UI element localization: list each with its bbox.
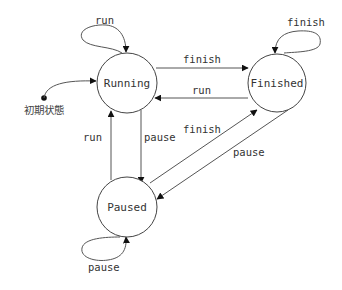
state-diagram: 初期状態 run finish run finish pause run fin… [0,0,342,290]
edge-label-finished-to-running: run [192,84,211,96]
edge-label-paused-self-pause: pause [88,261,120,273]
edge-finished-to-paused [157,110,288,199]
edge-label-finished-to-paused: pause [233,146,265,158]
edge-label-paused-to-finished: finish [183,123,221,135]
edge-finished-self-finish [275,31,320,53]
edge-label-running-to-finished: finish [183,53,221,65]
initial-state-label: 初期状態 [24,104,64,116]
state-running: Running [97,53,157,113]
edge-running-self-run [81,25,126,53]
edge-label-paused-to-running: run [83,131,102,143]
state-running-label: Running [104,77,150,90]
edge-label-running-self-run: run [95,14,114,26]
edge-initial-to-running [44,81,96,98]
state-finished-label: Finished [251,77,304,90]
state-paused-label: Paused [107,201,147,214]
edge-paused-self-pause [82,237,126,261]
state-finished: Finished [248,54,306,112]
edge-label-running-to-paused: pause [144,131,176,143]
edge-label-finished-self-finish: finish [287,16,325,28]
state-paused: Paused [97,177,157,237]
